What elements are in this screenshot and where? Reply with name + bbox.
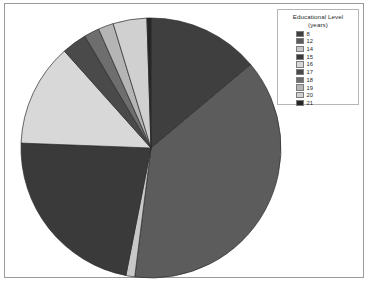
legend-item: 8	[296, 30, 310, 37]
legend-item: 17	[296, 68, 313, 75]
legend-swatch-icon	[296, 69, 304, 75]
legend-label: 8	[307, 31, 310, 37]
legend-swatch-icon	[296, 100, 304, 106]
chart-frame: Educational Level (years) 81214151617181…	[4, 3, 364, 278]
legend-items: 8121415161718192021	[280, 30, 356, 107]
legend-swatch-icon	[296, 54, 304, 60]
legend-swatch-icon	[296, 31, 304, 37]
legend-swatch-icon	[296, 92, 304, 98]
legend-item: 19	[296, 84, 313, 91]
legend-title: Educational Level (years)	[280, 13, 356, 28]
legend-label: 14	[307, 46, 313, 52]
legend-item: 15	[296, 53, 313, 60]
legend-item: 18	[296, 76, 313, 83]
legend: Educational Level (years) 81214151617181…	[277, 9, 359, 105]
pie-chart	[5, 4, 295, 279]
legend-label: 17	[307, 69, 313, 75]
legend-title-line-1: Educational Level	[280, 13, 356, 21]
legend-swatch-icon	[296, 46, 304, 52]
legend-label: 12	[307, 38, 313, 44]
legend-item: 21	[296, 99, 313, 106]
legend-label: 18	[307, 77, 313, 83]
legend-swatch-icon	[296, 84, 304, 90]
pie-svg	[5, 4, 295, 279]
legend-swatch-icon	[296, 38, 304, 44]
legend-swatch-icon	[296, 61, 304, 67]
legend-item: 12	[296, 38, 313, 45]
legend-label: 19	[307, 85, 313, 91]
legend-swatch-icon	[296, 77, 304, 83]
legend-title-line-2: (years)	[280, 21, 356, 29]
legend-item: 20	[296, 92, 313, 99]
legend-label: 16	[307, 61, 313, 67]
legend-label: 15	[307, 54, 313, 60]
legend-label: 21	[307, 100, 313, 106]
pie-slice-group	[21, 18, 281, 278]
legend-item: 16	[296, 61, 313, 68]
legend-label: 20	[307, 92, 313, 98]
legend-item: 14	[296, 45, 313, 52]
